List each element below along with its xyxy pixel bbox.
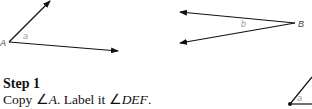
angle-a-vertex-label: A (0, 38, 6, 48)
step-text-label: . Label it (57, 92, 109, 107)
angle-b-figure: B b (180, 12, 304, 43)
angle-name-def: DEF (122, 92, 148, 107)
angle-a-angle-label: a (23, 31, 28, 41)
step-instruction: Copy ∠A. Label it ∠DEF. (3, 91, 151, 108)
angle-b-angle-label: b (241, 19, 246, 29)
step-title: Step 1 (3, 76, 40, 92)
angle-name-a: A (49, 92, 57, 107)
angle-a-figure: A a (0, 1, 118, 51)
angle-b-ray-upper (180, 12, 295, 23)
copied-angle-vertex-point (288, 102, 292, 106)
angle-symbol: ∠ (36, 92, 49, 107)
step-text-end: . (148, 92, 151, 107)
step-text-copy: Copy (3, 92, 36, 107)
angle-b-ray-lower (180, 23, 295, 43)
angle-a-ray-lower (9, 42, 118, 51)
copied-angle-angle-label: a (297, 93, 302, 103)
copied-angle-figure: a (288, 77, 312, 106)
angle-a-ray-upper (9, 1, 50, 42)
angle-symbol: ∠ (109, 92, 122, 107)
angle-b-vertex-label: B (298, 19, 304, 29)
